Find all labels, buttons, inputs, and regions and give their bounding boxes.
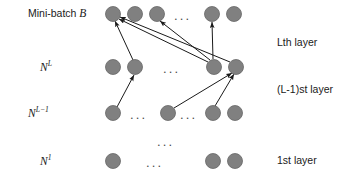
n-l-minus-1-superscript: L−1 [36,105,49,114]
row-label-n-1: N1 [40,154,51,167]
network-node [106,60,121,75]
network-node [128,60,143,75]
row-label-n-l: NL [40,60,52,73]
network-node [207,60,222,75]
n-l-minus-1-base: N [28,107,36,119]
horizontal-ellipsis: ... [180,108,197,121]
connection-arrow [115,21,133,60]
network-node [106,106,121,121]
network-node [206,154,221,169]
horizontal-ellipsis: ... [146,156,163,169]
network-node [106,154,121,169]
network-node [106,7,121,22]
layer-label-1st: 1st layer [277,155,317,166]
network-node [228,154,243,169]
network-node [227,7,242,22]
network-node [228,106,243,121]
connection-arrow [174,73,232,108]
connection-arrow [120,17,230,62]
network-node [128,7,143,22]
horizontal-ellipsis: ... [163,62,180,75]
n-l-base: N [40,61,48,73]
layer-label-l-minus-1-st: (L-1)st layer [277,84,333,95]
n-1-superscript: 1 [48,153,52,162]
n-1-base: N [40,155,48,167]
mini-batch-symbol: B [79,7,86,19]
row-label-mini-batch: Mini-batch B [28,8,87,20]
connection-arrow [215,74,234,106]
vertical-section-ellipsis: ... [157,135,174,148]
network-node [161,106,176,121]
network-node [205,7,220,22]
horizontal-ellipsis: ... [174,9,191,22]
network-node [229,60,244,75]
connection-arrow [119,19,208,62]
row-label-n-l-minus-1: NL−1 [28,106,49,119]
layer-label-lth: Lth layer [277,37,317,48]
network-node [206,106,221,121]
n-l-superscript: L [48,59,52,68]
connection-arrow [160,21,210,60]
figure-canvas: Mini-batch B NL NL−1 N1 Lth layer (L-1)s… [0,0,360,185]
nodes-layer [106,7,244,169]
mini-batch-text: Mini-batch [28,7,76,19]
network-node [150,7,165,22]
connection-arrow [117,75,134,107]
horizontal-ellipsis: ... [130,108,147,121]
connection-arrow [212,22,213,59]
